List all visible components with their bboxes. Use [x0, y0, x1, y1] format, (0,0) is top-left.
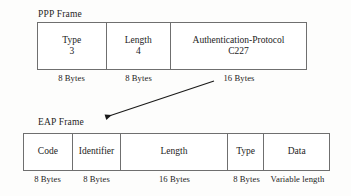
eap-field-data-name: Data [288, 146, 306, 157]
ppp-size-row: 8 Bytes 8 Bytes 16 Bytes [37, 73, 307, 83]
ppp-field-auth-protocol-value: C227 [228, 46, 249, 57]
eap-size-type: 8 Bytes [228, 174, 265, 184]
ppp-field-length-value: 4 [136, 46, 141, 57]
protocol-frame-diagram: PPP Frame Type 3 Length 4 Authentication… [0, 0, 351, 196]
ppp-size-length: 8 Bytes [106, 73, 171, 83]
ppp-field-type-name: Type [62, 35, 81, 46]
eap-frame-label: EAP Frame [38, 117, 84, 127]
ppp-field-length: Length 4 [107, 23, 172, 69]
eap-field-length: Length [121, 134, 227, 170]
eap-size-length: 16 Bytes [121, 174, 228, 184]
ppp-field-type-value: 3 [69, 46, 74, 57]
ppp-size-auth-protocol: 16 Bytes [171, 73, 307, 83]
ppp-frame-table: Type 3 Length 4 Authentication-Protocol … [37, 22, 307, 70]
ppp-field-length-name: Length [125, 35, 152, 46]
eap-size-row: 8 Bytes 8 Bytes 16 Bytes 8 Bytes Variabl… [23, 174, 330, 184]
eap-field-code-name: Code [38, 146, 58, 157]
ppp-field-auth-protocol-name: Authentication-Protocol [193, 35, 285, 46]
arrow-line [106, 81, 214, 117]
eap-field-identifier-name: Identifier [79, 146, 114, 157]
eap-frame-table: Code Identifier Length Type Data [23, 133, 330, 171]
ppp-frame-label: PPP Frame [38, 9, 82, 19]
eap-field-type-name: Type [236, 146, 255, 157]
eap-field-length-name: Length [161, 146, 188, 157]
eap-field-identifier: Identifier [73, 134, 122, 170]
eap-field-type: Type [228, 134, 265, 170]
ppp-field-type: Type 3 [38, 23, 107, 69]
ppp-size-type: 8 Bytes [37, 73, 106, 83]
eap-size-code: 8 Bytes [23, 174, 72, 184]
eap-size-data: Variable length [265, 174, 330, 184]
eap-field-code: Code [24, 134, 73, 170]
ppp-field-auth-protocol: Authentication-Protocol C227 [171, 23, 306, 69]
eap-size-identifier: 8 Bytes [72, 174, 121, 184]
eap-field-data: Data [264, 134, 329, 170]
